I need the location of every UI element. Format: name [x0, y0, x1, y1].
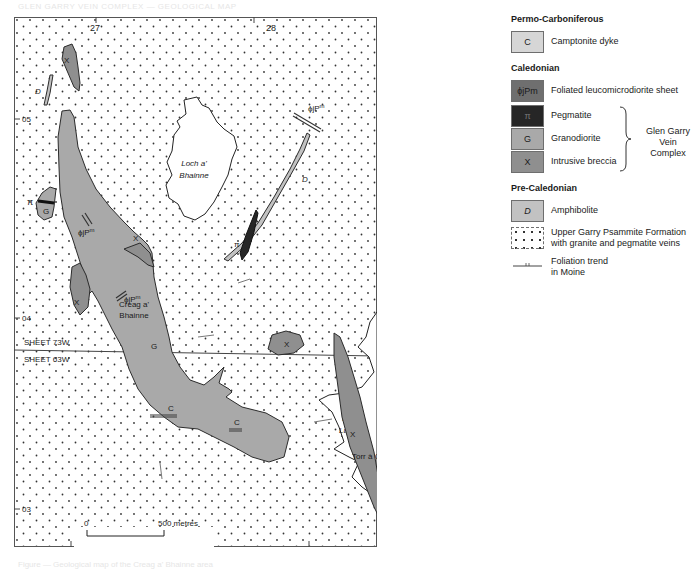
foliation-trend-icon — [511, 256, 544, 278]
breccia-symbol-torr: X — [350, 430, 356, 439]
legend-heading: Caledonian — [511, 63, 693, 73]
breccia-symbol-north: X — [64, 56, 70, 65]
pegmatite-symbol-central: π — [234, 240, 240, 249]
glen-garry-vein-complex-label: Glen Garry Vein Complex — [638, 126, 693, 159]
breccia-swatch: X — [511, 151, 544, 173]
legend-item-amphibolite: D Amphibolite — [511, 199, 693, 222]
breccia-symbol-west: X — [74, 298, 80, 307]
legend-item-foliated-sheet: ϕjPm Foliated leucomicrodiorite sheet — [511, 79, 693, 102]
legend-section-pre-caledonian: Pre-Caledonian D Amphibolite Upper Garry… — [511, 183, 693, 278]
granodiorite-symbol-west: G — [43, 207, 49, 216]
legend-section-permo-carboniferous: Permo-Carboniferous C Camptonite dyke — [511, 14, 693, 53]
legend-label: Amphibolite — [551, 205, 598, 216]
legend-label: Foliation trend in Moine — [551, 256, 608, 278]
creag-label-2: Bhainne — [119, 311, 149, 320]
legend-item-camptonite: C Camptonite dyke — [511, 30, 693, 53]
camptonite-symbol-1: C — [168, 404, 174, 413]
torr-a-chait-label: Torr à Chait — [352, 452, 377, 461]
psammite-label-line-1: Upper Garry Psammite Formation — [551, 227, 686, 238]
granodiorite-swatch: G — [511, 128, 544, 150]
breccia-symbol-central: X — [284, 340, 290, 349]
map-legend: Permo-Carboniferous C Camptonite dyke Ca… — [511, 14, 693, 288]
easting-27: 27 — [90, 23, 100, 33]
amphibolite-swatch: D — [511, 200, 544, 222]
sheet-63w-label: SHEET 63W — [24, 355, 70, 364]
legend-label: Upper Garry Psammite Formation with gran… — [551, 227, 686, 249]
group-label-line-1: Glen Garry Vein — [638, 126, 693, 148]
group-label-line-2: Complex — [638, 148, 693, 159]
legend-label: Granodiorite — [551, 133, 601, 144]
psammite-label-line-2: with granite and pegmatite veins — [551, 238, 686, 249]
legend-label: Pegmatite — [551, 110, 592, 121]
camptonite-swatch: C — [511, 31, 544, 53]
amphibolite-symbol-central: D — [302, 175, 308, 184]
legend-label: Camptonite dyke — [551, 36, 619, 47]
psammite-swatch — [511, 227, 544, 249]
easting-28: 28 — [266, 23, 276, 33]
page-header: GLEN GARRY VEIN COMPLEX — GEOLOGICAL MAP — [18, 2, 237, 11]
amphibolite-symbol-nw: D — [35, 87, 41, 96]
foliation-label-line-1: Foliation trend — [551, 256, 608, 267]
loch-a-bhainne-label-1: Loch a' — [181, 159, 207, 168]
legend-item-pegmatite: π Pegmatite — [511, 104, 693, 127]
geological-map: 27 28 29 NH 05 04 03 SHEET 73W SHEET 63W… — [14, 17, 377, 547]
loch-a-bhainne-label-2: Bhainne — [179, 171, 209, 180]
northing-04: 04 — [22, 314, 31, 323]
legend-label: Intrusive breccia — [551, 156, 617, 167]
pegmatite-vein-west — [38, 201, 54, 203]
foliation-label-line-2: in Moine — [551, 267, 608, 278]
northing-05: 05 — [22, 115, 31, 124]
foliated-sheet-swatch: ϕjPm — [511, 80, 544, 102]
pegmatite-swatch: π — [511, 105, 544, 127]
legend-section-caledonian: Caledonian ϕjPm Foliated leucomicrodiori… — [511, 63, 693, 173]
northing-03: 03 — [22, 505, 31, 514]
scale-bar-backdrop — [74, 527, 214, 547]
scale-start-label: 0 — [84, 519, 89, 528]
figure-caption: Figure — Geological map of the Creag a' … — [18, 560, 213, 569]
breccia-symbol-creag: X — [133, 234, 139, 243]
scale-end-label: 500 metres — [158, 519, 198, 528]
granodiorite-symbol-main: G — [151, 342, 157, 351]
legend-label: Foliated leucomicrodiorite sheet — [551, 85, 678, 96]
camptonite-symbol-2: C — [234, 418, 240, 427]
glen-garry-vein-complex-group: π Pegmatite G Granodiorite X Intrusive b… — [511, 104, 693, 173]
sheet-73w-label: SHEET 73W — [24, 338, 70, 347]
legend-heading: Permo-Carboniferous — [511, 14, 693, 24]
legend-heading: Pre-Caledonian — [511, 183, 693, 193]
brace-icon — [618, 106, 632, 172]
legend-item-foliation-trend: Foliation trend in Moine — [511, 255, 693, 278]
pegmatite-symbol-west: π — [27, 197, 33, 207]
legend-item-psammite: Upper Garry Psammite Formation with gran… — [511, 226, 693, 249]
